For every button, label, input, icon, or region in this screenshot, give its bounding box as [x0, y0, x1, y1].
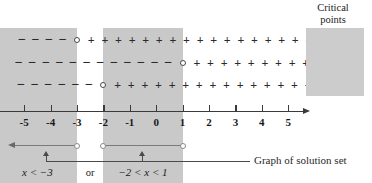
solution-endpoint-open [74, 143, 80, 149]
sign-minus: − [82, 56, 92, 70]
sign-plus: + [208, 78, 218, 92]
axis-arrow-right-icon [303, 108, 310, 114]
axis-tick-label: -1 [119, 116, 141, 128]
sign-plus: + [153, 78, 163, 92]
axis-tick [209, 105, 210, 111]
axis-tick [24, 105, 25, 111]
sign-plus: + [260, 56, 270, 70]
sign-plus: + [100, 33, 110, 47]
sign-plus: + [273, 56, 283, 70]
interval-label-left: x < −3 [0, 166, 77, 178]
sign-plus: + [276, 78, 286, 92]
axis-tick-label: 0 [145, 116, 167, 128]
sign-plus: + [219, 56, 229, 70]
sign-minus: − [123, 56, 133, 70]
sign-plus: + [168, 33, 178, 47]
callout-up-arrow-icon [139, 151, 145, 156]
number-line-axis [0, 111, 303, 112]
sign-plus: + [205, 56, 215, 70]
axis-tick [51, 105, 52, 111]
sign-minus: − [41, 56, 51, 70]
sign-minus: − [136, 56, 146, 70]
axis-tick-label: 4 [251, 116, 273, 128]
axis-tick-label: 2 [198, 116, 220, 128]
sign-plus: + [140, 78, 150, 92]
sign-minus: − [58, 33, 68, 47]
sign-minus: − [109, 56, 119, 70]
sign-plus: + [195, 33, 205, 47]
axis-tick-label: 5 [277, 116, 299, 128]
sign-minus: − [57, 78, 67, 92]
sign-plus: + [181, 33, 191, 47]
sign-plus: + [290, 33, 300, 47]
axis-tick-label: -2 [92, 116, 114, 128]
sign-plus: + [181, 78, 191, 92]
solution-ray-left [13, 145, 77, 146]
axis-tick [183, 105, 184, 111]
sign-plus: + [249, 33, 259, 47]
sign-plus: + [277, 33, 287, 47]
solution-endpoint-open [180, 143, 186, 149]
sign-plus: + [289, 78, 299, 92]
critical-points-title: Critical points [300, 2, 366, 26]
axis-tick-label: 1 [172, 116, 194, 128]
open-circle-marker [74, 37, 80, 43]
sign-minus: − [43, 78, 53, 92]
sign-plus: + [167, 78, 177, 92]
sign-plus: + [127, 33, 137, 47]
sign-plus: + [222, 33, 232, 47]
sign-plus: + [154, 33, 164, 47]
interval-conjunction: or [77, 167, 103, 178]
sign-minus: − [27, 56, 37, 70]
sign-minus: − [31, 33, 41, 47]
axis-tick [262, 105, 263, 111]
sign-plus: + [262, 78, 272, 92]
sign-plus: + [249, 78, 259, 92]
critical-points-title-line1: Critical [317, 2, 349, 13]
axis-tick [103, 105, 104, 111]
sign-minus: − [95, 56, 105, 70]
axis-tick-label: -5 [13, 116, 35, 128]
sign-plus: + [86, 33, 96, 47]
sign-minus: − [71, 78, 81, 92]
sign-plus: + [192, 56, 202, 70]
open-circle-marker [180, 60, 186, 66]
sign-minus: − [84, 78, 94, 92]
sign-plus: + [233, 56, 243, 70]
sign-minus: − [14, 56, 24, 70]
sign-plus: + [235, 78, 245, 92]
axis-tick [288, 105, 289, 111]
sign-plus: + [221, 78, 231, 92]
sign-plus: + [126, 78, 136, 92]
sign-plus: + [246, 56, 256, 70]
axis-tick [77, 105, 78, 111]
sign-minus: − [55, 56, 65, 70]
sign-minus: − [150, 56, 160, 70]
sign-plus: + [209, 33, 219, 47]
sign-minus: − [163, 56, 173, 70]
sign-plus: + [263, 33, 273, 47]
sign-plus: + [194, 78, 204, 92]
callout-up-arrow-icon [43, 151, 49, 156]
axis-tick [235, 105, 236, 111]
sign-minus: − [17, 33, 27, 47]
solution-segment-middle [103, 145, 182, 146]
axis-tick-label: -3 [66, 116, 88, 128]
open-circle-marker [100, 82, 106, 88]
sign-plus: + [236, 33, 246, 47]
figure-canvas: −−−−++++++++++++++++++++ −−−−−−−−−−−−+++… [0, 0, 372, 183]
interval-label-right: −2 < x < 1 [103, 166, 182, 178]
sign-plus: + [287, 56, 297, 70]
sign-plus: + [113, 78, 123, 92]
sign-plus: + [113, 33, 123, 47]
axis-tick-label: 3 [224, 116, 246, 128]
solution-set-caption: Graph of solution set [254, 154, 347, 166]
solution-ray-arrow-icon [8, 142, 15, 148]
sign-minus: − [16, 78, 26, 92]
axis-tick [130, 105, 131, 111]
critical-points-box: x = −3 x = 1 x = −2 [306, 28, 364, 96]
sign-minus: − [30, 78, 40, 92]
sign-plus: + [141, 33, 151, 47]
callout-horizontal-line [46, 161, 250, 162]
sign-minus: − [68, 56, 78, 70]
